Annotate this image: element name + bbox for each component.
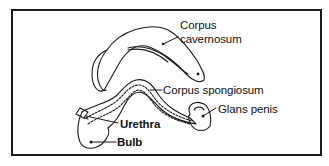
- glans-penis-shape: [189, 102, 211, 130]
- label-corpus-spongiosum: Corpus spongiosum: [163, 84, 264, 96]
- leader-glans-penis: [203, 108, 216, 116]
- label-corpus-cavernosum-line2: cavernosum: [180, 33, 242, 45]
- label-glans-penis: Glans penis: [218, 103, 278, 115]
- label-corpus-cavernosum-line1: Corpus: [180, 19, 216, 31]
- label-urethra: Urethra: [120, 118, 160, 130]
- anatomy-illustration: [0, 0, 329, 166]
- leader-corpus-cavernosum: [163, 37, 178, 44]
- label-bulb: Bulb: [117, 136, 142, 148]
